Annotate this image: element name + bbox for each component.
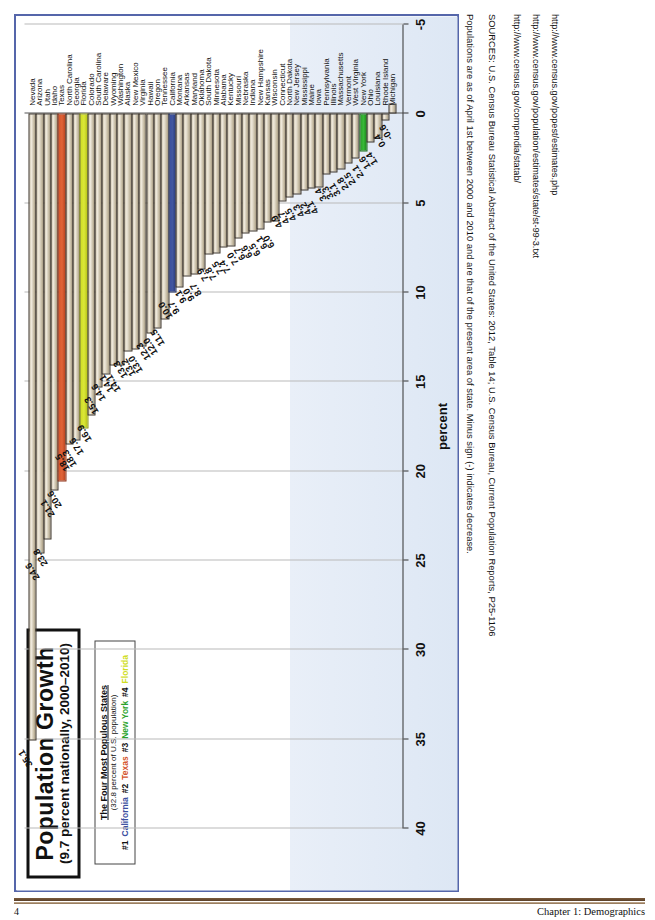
axis-tick-label: 25 [412,553,427,567]
source-notes: Populations are as of April 1st between … [470,14,645,892]
note-sources: SOURCES: U.S. Census Bureau Statistical … [487,14,498,636]
chart-canvas: Population Growth (9.7 percent nationall… [16,16,457,890]
plot-area: 35.1Nevada24.6Arizona23.8Utah21.1Idaho20… [24,24,403,828]
axis-tick-label: 0 [412,110,427,117]
axis-tick [403,648,408,649]
bar-row: -0.6Michigan [388,24,396,828]
axis-tick-label: 15 [412,374,427,388]
rotated-chart-stage: Population Growth (9.7 percent nationall… [16,16,457,890]
axis-tick-label: 10 [412,285,427,299]
chart-panel: Population Growth (9.7 percent nationall… [14,14,459,892]
axis-tick [403,380,408,381]
axis-label-percent: percent [434,24,449,828]
axis-tick [403,202,408,203]
note-url-popest[interactable]: http://www.census.gov/popest/estimates.p… [550,14,560,195]
bar-value-label: 35.1 [15,748,34,770]
axis-tick-label: 40 [412,821,427,835]
document-page: Population Growth (9.7 percent nationall… [0,0,655,920]
bar-series: 35.1Nevada24.6Arizona23.8Utah21.1Idaho20… [24,24,403,828]
axis-tick [403,112,408,113]
note-url-statab[interactable]: http://www.census.gov/compendia/statab/ [512,14,522,183]
note-url-estimates[interactable]: http://www.census.gov/population/estimat… [531,14,541,258]
legend-rank: #1 [119,840,129,849]
axis-tick [403,738,408,739]
axis-tick [403,559,408,560]
axis-tick-label: -5 [412,18,427,30]
category-label: Michigan [388,73,396,105]
axis-tick-label: 35 [412,731,427,745]
x-axis [402,24,403,828]
axis-tick-label: 5 [412,199,427,206]
axis-tick-label: 30 [412,642,427,656]
axis-tick [403,470,408,471]
axis-tick [403,827,408,828]
page-number: 4 [14,906,19,917]
footer-rule-bottom [14,902,645,904]
axis-tick [403,23,408,24]
chapter-label: Chapter 1: Demographics [537,906,645,917]
axis-tick-label: 20 [412,463,427,477]
note-populations: Populations are as of April 1st between … [465,14,476,554]
footer-rule-top [14,898,645,901]
axis-tick [403,291,408,292]
